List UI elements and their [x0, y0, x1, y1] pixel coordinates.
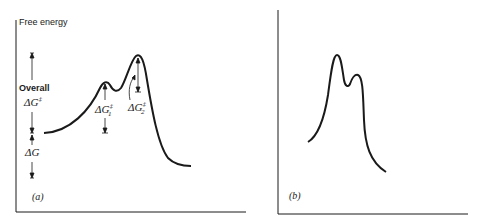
overall-dg-label: ΔG‡ [24, 95, 42, 108]
panel-b-label: (b) [289, 190, 301, 201]
overall-label: Overall [19, 83, 50, 93]
dg1-sub: 1 [108, 110, 112, 118]
overall-dg-symbol: ΔG [24, 96, 38, 108]
panel-a-label: (a) [32, 191, 44, 202]
dg2-sup: ‡ [142, 100, 146, 108]
b-energy-curve [308, 55, 386, 172]
y-axis-label: Free energy [19, 17, 68, 27]
overall-dg-sup: ‡ [38, 95, 42, 103]
a-energy-curve [44, 55, 191, 166]
dg-label: ΔG [25, 146, 39, 158]
dg1-sup: ‡ [109, 102, 113, 110]
overall-dg-arrow [30, 53, 34, 133]
dg2-label: ΔG‡2 [128, 100, 144, 116]
dg2-sub: 2 [141, 108, 145, 116]
diagram-canvas [0, 0, 478, 223]
dg1-label: ΔG‡1 [95, 102, 111, 118]
